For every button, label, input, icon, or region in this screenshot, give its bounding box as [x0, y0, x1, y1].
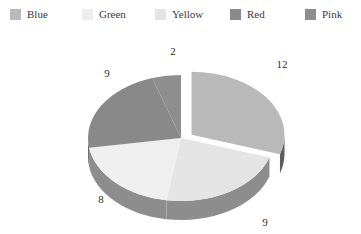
pie-chart-figure: Blue Green Yellow Red Pink 129892 — [0, 0, 361, 234]
legend-swatch-icon — [82, 9, 93, 20]
pie-svg: 129892 — [0, 30, 361, 234]
legend-swatch-icon — [230, 9, 241, 20]
legend-item-blue[interactable]: Blue — [10, 9, 48, 20]
legend-item-red[interactable]: Red — [230, 9, 265, 20]
legend-item-pink[interactable]: Pink — [305, 9, 342, 20]
legend-swatch-icon — [10, 9, 21, 20]
legend-swatch-icon — [155, 9, 166, 20]
pie-slice-top[interactable] — [192, 72, 285, 154]
legend-item-label: Pink — [322, 9, 342, 20]
legend-item-label: Red — [247, 9, 265, 20]
legend-swatch-icon — [305, 9, 316, 20]
legend-item-green[interactable]: Green — [82, 9, 126, 20]
legend-item-yellow[interactable]: Yellow — [155, 9, 203, 20]
pie-slice-label: 2 — [170, 45, 176, 57]
legend-item-label: Green — [99, 9, 126, 20]
chart-legend: Blue Green Yellow Red Pink — [0, 0, 361, 30]
legend-item-label: Blue — [27, 9, 48, 20]
pie-slice-label: 9 — [262, 216, 268, 228]
pie-slice-label: 12 — [277, 58, 288, 70]
pie-slice-label: 8 — [98, 193, 104, 205]
legend-item-label: Yellow — [172, 9, 203, 20]
pie-slice-label: 9 — [104, 67, 110, 79]
